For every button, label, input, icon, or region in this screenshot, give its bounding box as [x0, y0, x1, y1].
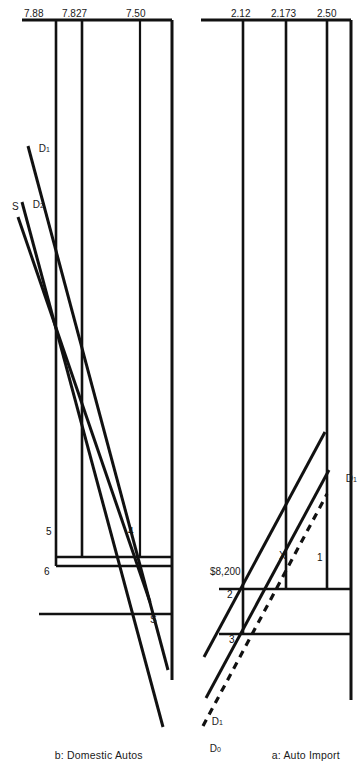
- chart-b-label-d1-sub: 1: [46, 146, 50, 153]
- figure-canvas: b: Domestic Autos Submarket S S D2 D1 6 …: [0, 0, 358, 762]
- chart-a-point-2: 2: [227, 589, 233, 600]
- chart-b-xtick-750: 7.50: [126, 8, 145, 19]
- chart-a-plot: [179, 0, 358, 762]
- chart-a-curve-d1: [206, 470, 329, 698]
- chart-b-domestic-autos: b: Domestic Autos Submarket S S D2 D1 6 …: [0, 0, 179, 762]
- chart-a-label-d1-sub: 1: [219, 719, 223, 726]
- chart-b-label-d1: D: [39, 143, 46, 154]
- chart-a-xtick-250: 2.50: [317, 8, 336, 19]
- chart-b-xtick-7827: 7.827: [62, 8, 87, 19]
- chart-b-point-6: 6: [44, 566, 50, 577]
- chart-b-label-s-bottom: S: [150, 614, 157, 625]
- chart-a-label-d0: D: [210, 743, 217, 754]
- chart-b-label-d2: D: [33, 199, 40, 210]
- chart-b-curve-d1: [28, 146, 168, 670]
- chart-a-point-1: 1: [317, 552, 323, 563]
- chart-a-auto-import: a: Auto Import Submarket D0 D1 D1 D0 3 2…: [179, 0, 358, 762]
- chart-a-xtick-212: 2.12: [231, 8, 250, 19]
- chart-b-title-line1: b: Domestic Autos: [55, 749, 143, 761]
- chart-a-point-3: 3: [229, 634, 235, 645]
- chart-b-label-d2-sub: 2: [40, 202, 44, 209]
- chart-b-point-4: 4: [128, 526, 134, 537]
- chart-a-xtick-2173: 2.173: [271, 8, 296, 19]
- chart-a-label-d1-alt-sub: 1: [353, 476, 357, 483]
- chart-b-curve-d2: [22, 202, 163, 727]
- chart-a-label-d1: D: [212, 716, 219, 727]
- chart-a-title-line1: a: Auto Import: [272, 749, 340, 761]
- chart-a-label-d1-alt: D: [346, 473, 353, 484]
- chart-b-plot: [0, 0, 179, 762]
- chart-b-xtick-788: 7.88: [24, 8, 43, 19]
- chart-a-label-d0-sub: 0: [217, 746, 221, 753]
- chart-b-curve-s: [18, 217, 150, 602]
- chart-a-point-x: X: [279, 550, 286, 561]
- chart-a-curve-s: [204, 432, 325, 657]
- chart-b-point-5: 5: [46, 526, 52, 537]
- chart-a-curve-d0: [203, 494, 327, 726]
